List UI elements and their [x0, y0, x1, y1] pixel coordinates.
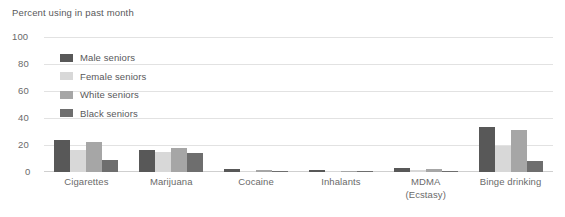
- x-tick-label: Cigarettes: [44, 176, 129, 201]
- bar[interactable]: [511, 130, 527, 172]
- bar[interactable]: [341, 171, 357, 172]
- legend-swatch: [60, 91, 73, 99]
- x-tick-label-line: Cocaine: [214, 176, 299, 189]
- bar[interactable]: [394, 168, 410, 172]
- bar-chart: Percent using in past month 100 80 60 40…: [0, 0, 565, 217]
- bar[interactable]: [102, 160, 118, 172]
- bar[interactable]: [410, 170, 426, 172]
- bar[interactable]: [240, 171, 256, 172]
- x-tick-label-line: Cigarettes: [44, 176, 129, 189]
- bar[interactable]: [139, 150, 155, 172]
- x-tick-label-line: (Ecstasy): [383, 189, 468, 202]
- bar[interactable]: [171, 148, 187, 172]
- bar[interactable]: [272, 171, 288, 172]
- legend-label: White seniors: [80, 89, 139, 100]
- legend-swatch: [60, 109, 73, 117]
- legend-swatch: [60, 72, 73, 80]
- legend-item[interactable]: White seniors: [60, 87, 146, 102]
- bar[interactable]: [357, 171, 373, 172]
- bar[interactable]: [256, 170, 272, 172]
- y-tick-label: 0: [25, 166, 30, 177]
- bar-group: [468, 37, 553, 172]
- bar[interactable]: [495, 146, 511, 172]
- bar-set: [309, 37, 373, 172]
- chart-title: Percent using in past month: [12, 7, 134, 18]
- bar-set: [139, 37, 203, 172]
- y-tick-label: 60: [18, 85, 29, 96]
- bar-group: [298, 37, 383, 172]
- y-tick-label: 40: [18, 112, 29, 123]
- legend-item[interactable]: Female seniors: [60, 69, 146, 84]
- bar-group: [214, 37, 299, 172]
- bar-set: [394, 37, 458, 172]
- x-tick-label: Inhalants: [298, 176, 383, 201]
- x-tick-label: Cocaine: [214, 176, 299, 201]
- legend-label: Female seniors: [80, 71, 146, 82]
- y-tick-label: 100: [12, 31, 28, 42]
- bar[interactable]: [86, 142, 102, 172]
- bar[interactable]: [325, 171, 341, 172]
- legend-label: Male seniors: [80, 52, 135, 63]
- x-tick-label: MDMA(Ecstasy): [383, 176, 468, 201]
- chart-legend: Male seniorsFemale seniorsWhite seniorsB…: [60, 50, 146, 124]
- x-tick-label-line: Inhalants: [298, 176, 383, 189]
- bar[interactable]: [54, 140, 70, 172]
- x-tick-label: Binge drinking: [468, 176, 553, 201]
- x-tick-label-line: Binge drinking: [468, 176, 553, 189]
- bar[interactable]: [155, 152, 171, 172]
- bar[interactable]: [187, 153, 203, 172]
- x-tick-label: Marijuana: [129, 176, 214, 201]
- x-tick-label-line: Marijuana: [129, 176, 214, 189]
- bar[interactable]: [70, 150, 86, 172]
- bar[interactable]: [426, 169, 442, 172]
- legend-item[interactable]: Black seniors: [60, 106, 146, 121]
- bar-set: [479, 37, 543, 172]
- x-axis-labels: CigarettesMarijuanaCocaineInhalantsMDMA(…: [44, 176, 553, 201]
- bar[interactable]: [479, 127, 495, 172]
- legend-item[interactable]: Male seniors: [60, 50, 146, 65]
- legend-label: Black seniors: [80, 108, 138, 119]
- y-tick-label: 20: [18, 139, 29, 150]
- bar[interactable]: [527, 161, 543, 172]
- bar[interactable]: [224, 169, 240, 172]
- legend-swatch: [60, 54, 73, 62]
- bar-set: [224, 37, 288, 172]
- y-tick-label: 80: [18, 58, 29, 69]
- bar[interactable]: [442, 171, 458, 172]
- bar[interactable]: [309, 170, 325, 172]
- x-tick-label-line: MDMA: [383, 176, 468, 189]
- bar-group: [383, 37, 468, 172]
